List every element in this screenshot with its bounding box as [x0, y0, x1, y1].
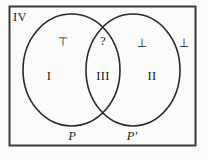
truth-symbol-left-top: ⊤	[58, 36, 68, 48]
set-label-p-prime: P'	[127, 130, 137, 143]
region-label-iv: IV	[13, 11, 27, 24]
truth-symbol-outside-bottom: ⊥	[179, 37, 189, 49]
set-label-p: P	[68, 130, 76, 143]
region-label-ii: II	[148, 70, 157, 83]
truth-symbol-intersection-question: ?	[100, 35, 105, 47]
truth-symbol-right-bottom: ⊥	[137, 37, 147, 49]
venn-diagram-figure: IV ⊤ ? ⊥ ⊥ I III II P P'	[0, 0, 208, 160]
region-label-i: I	[47, 70, 51, 83]
region-label-iii: III	[96, 70, 109, 83]
